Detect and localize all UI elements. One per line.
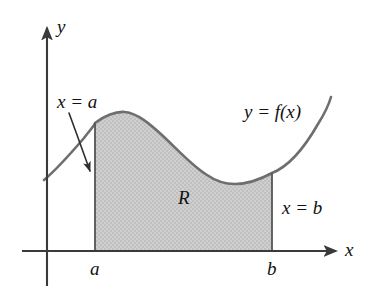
y-axis-label: y bbox=[57, 17, 65, 36]
shaded-region-R bbox=[95, 112, 272, 251]
x-tick-label-b: b bbox=[267, 259, 277, 278]
figure-container: y x x = a x = b y = f(x) R a b bbox=[0, 0, 376, 299]
x-equals-a-pointer-arrow bbox=[69, 113, 90, 171]
curve-label: y = f(x) bbox=[244, 102, 301, 121]
left-boundary-label: x = a bbox=[57, 92, 97, 111]
x-tick-label-a: a bbox=[90, 259, 100, 278]
region-label: R bbox=[178, 188, 190, 207]
x-axis-label: x bbox=[345, 240, 353, 259]
region-under-curve-figure bbox=[0, 0, 376, 299]
right-boundary-label: x = b bbox=[282, 198, 322, 217]
